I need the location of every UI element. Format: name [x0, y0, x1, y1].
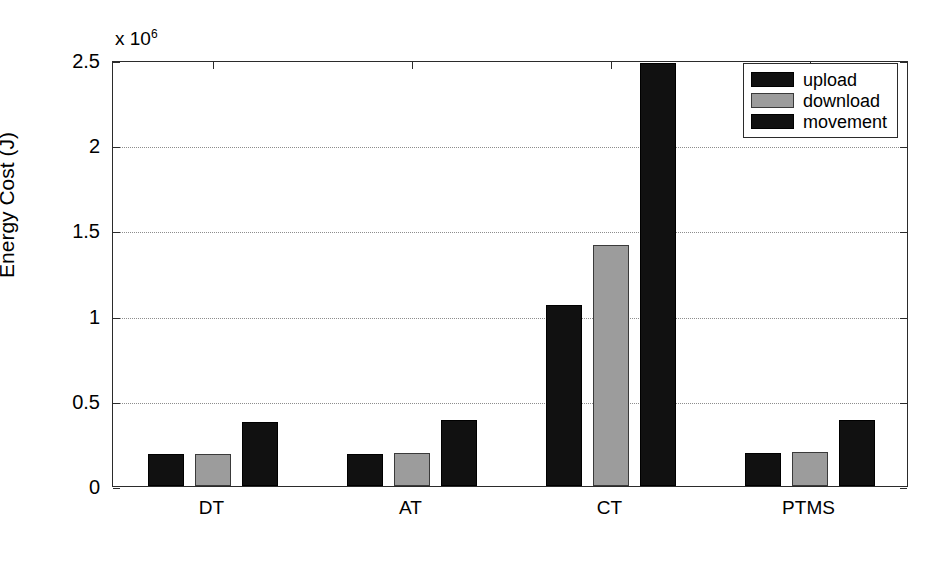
y-tick-label: 0 — [0, 477, 100, 497]
gridline — [113, 318, 907, 319]
y-tick-mark — [113, 318, 120, 319]
bar-ptms-upload — [745, 453, 781, 486]
y-tick-mark — [900, 488, 907, 489]
legend-item-movement: movement — [751, 111, 890, 132]
bar-at-download — [394, 453, 430, 486]
bar-ptms-download — [792, 452, 828, 486]
legend-item-upload: upload — [751, 69, 890, 90]
y-tick-mark — [113, 232, 120, 233]
y-tick-mark — [900, 232, 907, 233]
x-tick-mark — [611, 62, 612, 69]
y-tick-label: 2.5 — [0, 51, 100, 71]
y-tick-mark — [900, 147, 907, 148]
gridline — [113, 147, 907, 148]
legend-swatch-download — [751, 93, 794, 108]
y-tick-mark — [900, 62, 907, 63]
y-axis-exponent-label: x 106 — [115, 27, 158, 50]
y-tick-label: 2 — [0, 136, 100, 156]
legend-item-download: download — [751, 90, 890, 111]
bar-at-upload — [347, 454, 383, 486]
x-tick-label-ct: CT — [550, 498, 670, 517]
y-tick-mark — [113, 403, 120, 404]
y-axis-exponent-power: 6 — [151, 27, 158, 41]
y-axis-exponent-mantissa: x 10 — [115, 28, 151, 49]
bar-dt-download — [195, 454, 231, 486]
x-tick-mark — [412, 62, 413, 69]
legend-label-download: download — [803, 92, 880, 110]
gridline — [113, 403, 907, 404]
y-axis-title: Energy Cost (J) — [0, 15, 19, 395]
y-tick-mark — [900, 403, 907, 404]
chart-legend: uploaddownloadmovement — [743, 63, 898, 138]
plot-area: uploaddownloadmovement Transmission Stra… — [112, 61, 908, 487]
y-tick-mark — [113, 62, 120, 63]
bar-ptms-movement — [839, 420, 875, 486]
bar-ct-movement — [640, 63, 676, 486]
bar-at-movement — [441, 420, 477, 486]
y-tick-mark — [113, 488, 120, 489]
legend-label-upload: upload — [803, 71, 857, 89]
bar-dt-movement — [242, 422, 278, 486]
legend-label-movement: movement — [803, 113, 887, 131]
y-tick-mark — [113, 147, 120, 148]
gridline — [113, 232, 907, 233]
bar-ct-upload — [546, 305, 582, 486]
x-tick-label-dt: DT — [152, 498, 272, 517]
bar-ct-download — [593, 245, 629, 486]
legend-swatch-upload — [751, 72, 794, 87]
y-tick-label: 1.5 — [0, 221, 100, 241]
bar-dt-upload — [148, 454, 184, 486]
x-tick-mark — [213, 62, 214, 69]
y-tick-label: 0.5 — [0, 392, 100, 412]
x-tick-label-ptms: PTMS — [749, 498, 869, 517]
y-tick-mark — [900, 318, 907, 319]
y-tick-label: 1 — [0, 307, 100, 327]
bar-chart-figure: x 106 Energy Cost (J) uploaddownloadmove… — [0, 0, 939, 563]
legend-swatch-movement — [751, 114, 794, 129]
x-tick-label-at: AT — [351, 498, 471, 517]
